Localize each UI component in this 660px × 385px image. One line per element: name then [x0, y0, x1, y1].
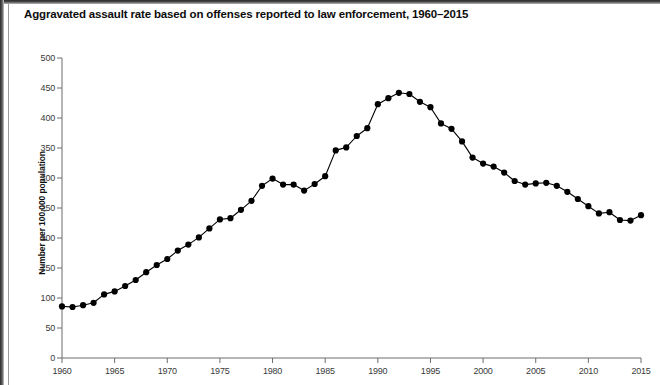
data-point [606, 209, 612, 215]
data-point [280, 182, 286, 188]
data-point [154, 262, 160, 268]
x-tick-label: 1970 [147, 366, 187, 376]
data-point [533, 180, 539, 186]
y-tick-label: 50 [29, 323, 55, 333]
data-point [543, 180, 549, 186]
data-point [585, 203, 591, 209]
data-point [133, 277, 139, 283]
data-point [427, 104, 433, 110]
data-point [354, 133, 360, 139]
data-point [522, 182, 528, 188]
plot-area: Number per 100,000 population 0501001502… [0, 0, 660, 385]
y-tick-label: 500 [29, 53, 55, 63]
data-point [248, 198, 254, 204]
x-tick-label: 1980 [253, 366, 293, 376]
data-point [217, 216, 223, 222]
data-point [512, 178, 518, 184]
data-point [69, 304, 75, 310]
series-markers [59, 90, 644, 310]
x-tick-label: 2000 [463, 366, 503, 376]
data-point [459, 138, 465, 144]
data-point [90, 300, 96, 306]
chart-figure: Aggravated assault rate based on offense… [0, 0, 660, 385]
y-tick-label: 100 [29, 293, 55, 303]
data-point [291, 182, 297, 188]
data-point [185, 242, 191, 248]
data-point [385, 95, 391, 101]
data-point [196, 234, 202, 240]
data-point [59, 303, 65, 309]
data-point [554, 183, 560, 189]
data-point [564, 189, 570, 195]
data-point [375, 101, 381, 107]
data-point [343, 144, 349, 150]
data-point [333, 147, 339, 153]
axis-lines [62, 58, 641, 358]
line-chart-canvas [0, 0, 660, 385]
data-point [438, 120, 444, 126]
y-tick-label: 400 [29, 113, 55, 123]
data-point [596, 210, 602, 216]
data-point [469, 155, 475, 161]
x-tick-label: 1985 [305, 366, 345, 376]
data-point [101, 291, 107, 297]
data-point [80, 302, 86, 308]
data-point [269, 176, 275, 182]
y-tick-label: 200 [29, 233, 55, 243]
x-tick-label: 1965 [95, 366, 135, 376]
data-point [396, 90, 402, 96]
data-point [238, 207, 244, 213]
data-point [175, 248, 181, 254]
data-point [480, 161, 486, 167]
data-point [617, 217, 623, 223]
data-point [491, 164, 497, 170]
data-point [164, 256, 170, 262]
x-tick-label: 1990 [358, 366, 398, 376]
data-point [206, 225, 212, 231]
axis-tick-marks [57, 58, 641, 363]
data-point [301, 188, 307, 194]
y-tick-label: 150 [29, 263, 55, 273]
data-point [627, 218, 633, 224]
series-line [62, 93, 641, 307]
data-point [501, 170, 507, 176]
x-tick-label: 1960 [42, 366, 82, 376]
y-tick-label: 450 [29, 83, 55, 93]
x-tick-label: 2010 [568, 366, 608, 376]
data-point [143, 269, 149, 275]
data-point [122, 283, 128, 289]
data-point [448, 126, 454, 132]
y-tick-label: 250 [29, 203, 55, 213]
data-point [312, 181, 318, 187]
data-point [259, 183, 265, 189]
data-point [638, 212, 644, 218]
x-tick-label: 2005 [516, 366, 556, 376]
data-point [112, 288, 118, 294]
y-tick-label: 300 [29, 173, 55, 183]
x-tick-label: 1975 [200, 366, 240, 376]
data-point [417, 99, 423, 105]
x-tick-label: 2015 [621, 366, 660, 376]
y-tick-label: 0 [29, 353, 55, 363]
data-point [364, 125, 370, 131]
data-point [406, 91, 412, 97]
data-point [575, 196, 581, 202]
x-tick-label: 1995 [410, 366, 450, 376]
data-point [227, 215, 233, 221]
data-point [322, 173, 328, 179]
y-tick-label: 350 [29, 143, 55, 153]
